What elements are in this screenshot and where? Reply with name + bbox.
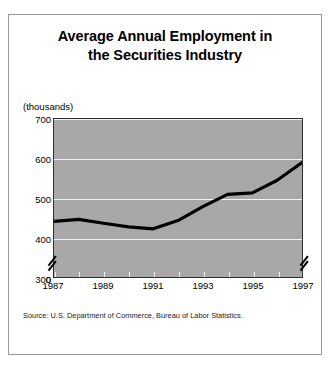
x-tick-mark-1988 xyxy=(79,272,80,277)
x-tick-mark-1996 xyxy=(279,272,280,277)
y-tick-500: 500 xyxy=(35,194,51,205)
x-tick-mark-1992 xyxy=(179,272,180,277)
source-note: Source: U.S. Department of Commerce, Bur… xyxy=(23,311,313,321)
x-tick-mark-1994 xyxy=(229,272,230,277)
plot-wrapper: 7006005004003000 19871989199119931995199… xyxy=(23,118,309,290)
page-title: Average Annual Employment in the Securit… xyxy=(9,15,321,65)
y-tick-600: 600 xyxy=(35,154,51,165)
x-tick-mark-1993 xyxy=(204,272,205,277)
x-tick-1993: 1993 xyxy=(192,280,213,291)
x-tick-mark-1987 xyxy=(55,272,56,277)
y-tick-700: 700 xyxy=(35,114,51,125)
y-tick-400: 400 xyxy=(35,234,51,245)
x-tick-1997: 1997 xyxy=(292,280,313,291)
x-tick-mark-1991 xyxy=(154,272,155,277)
data-line-chart xyxy=(54,119,302,277)
x-tick-1991: 1991 xyxy=(142,280,163,291)
right-axis-break-icon xyxy=(297,256,311,272)
plot-area xyxy=(53,118,303,278)
x-tick-mark-1997 xyxy=(302,272,303,277)
y-axis-break-icon xyxy=(45,256,59,272)
chart-card: Average Annual Employment in the Securit… xyxy=(8,14,322,355)
x-axis-tick-labels: 198719891991199319951997 xyxy=(53,280,303,294)
x-tick-mark-1989 xyxy=(104,272,105,277)
title-line-1: Average Annual Employment in xyxy=(27,27,303,46)
x-tick-1987: 1987 xyxy=(42,280,63,291)
x-tick-mark-1990 xyxy=(129,272,130,277)
employment-line xyxy=(54,162,302,228)
x-tick-mark-1995 xyxy=(254,272,255,277)
x-tick-1989: 1989 xyxy=(92,280,113,291)
title-line-2: the Securities Industry xyxy=(27,46,303,65)
x-tick-1995: 1995 xyxy=(242,280,263,291)
y-axis-unit-label: (thousands) xyxy=(23,101,73,112)
